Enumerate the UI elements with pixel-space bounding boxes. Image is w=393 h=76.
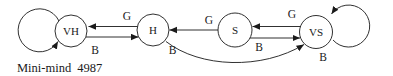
edge-vh-self-loop xyxy=(18,9,59,52)
state-diagram: VH H S VS G B G B G B B Mini-mind 4987 xyxy=(0,0,393,76)
figure-caption: Mini-mind 4987 xyxy=(17,61,102,75)
node-vh-label: VH xyxy=(63,25,79,37)
edge-vs-self-loop xyxy=(332,5,370,47)
edge-label-s-to-vs: B xyxy=(255,41,263,53)
edge-label-vs-to-s: G xyxy=(288,8,296,20)
node-h-label: H xyxy=(149,24,157,36)
edge-label-h-to-vs: B xyxy=(169,44,177,56)
node-vs-label: VS xyxy=(309,26,323,38)
edge-label-h-to-vh: G xyxy=(123,10,131,22)
edge-label-vh-to-h: B xyxy=(91,44,99,56)
edge-label-vs-self-loop: B xyxy=(319,51,327,63)
edge-label-s-to-h: G xyxy=(205,14,213,26)
node-s-label: S xyxy=(232,24,238,36)
